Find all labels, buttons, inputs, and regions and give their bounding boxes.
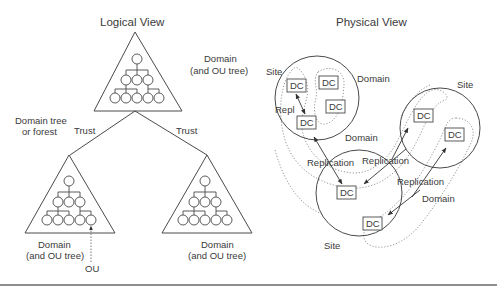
replication-label-2: Replication <box>362 155 409 166</box>
ou-label: OU <box>85 263 99 274</box>
repl-arrow-site1 <box>296 94 305 114</box>
physical-view-title: Physical View <box>336 16 407 28</box>
svg-text:DC: DC <box>448 129 462 140</box>
dc-site1-d: DC <box>297 116 316 129</box>
site1-label: Site <box>266 66 282 77</box>
trust-right-label: Trust <box>176 125 198 136</box>
replication-label-1: Replication <box>307 157 354 168</box>
forest-label-1: Domain tree <box>15 115 67 126</box>
dc-site2-a: DC <box>414 109 433 122</box>
svg-text:DC: DC <box>366 218 380 229</box>
dc-site1-a: DC <box>287 79 306 92</box>
site-circle-1 <box>275 56 359 140</box>
replication-label-3: Replication <box>397 176 444 187</box>
site2-label: Site <box>457 79 473 90</box>
site3-label: Site <box>324 240 340 251</box>
forest-label-2: or forest <box>22 126 57 137</box>
top-domain-label-1: Domain <box>204 53 237 64</box>
top-domain-triangle <box>94 32 182 111</box>
left-domain-label-2: (and OU tree) <box>26 250 84 261</box>
ad-views-diagram: Logical View Domain (and OU tree) Domain… <box>0 0 497 288</box>
top-domain-label-2: (and OU tree) <box>190 65 248 76</box>
svg-text:DC: DC <box>322 77 336 88</box>
replication-arrow-3a <box>388 190 420 215</box>
right-domain-triangle <box>162 155 252 233</box>
repl-label: Repl <box>275 104 295 115</box>
dc-site3-a: DC <box>337 186 356 199</box>
svg-text:DC: DC <box>300 117 314 128</box>
logical-view-title: Logical View <box>100 16 165 28</box>
dc-site1-c: DC <box>326 100 345 113</box>
domain-label-3: Domain <box>422 193 455 204</box>
dc-site2-b: DC <box>445 128 464 141</box>
svg-text:DC: DC <box>417 110 431 121</box>
svg-text:DC: DC <box>329 101 343 112</box>
svg-text:DC: DC <box>290 80 304 91</box>
left-domain-triangle <box>25 155 115 233</box>
dc-site3-b: DC <box>363 217 382 230</box>
replication-arrow-3b <box>412 148 446 197</box>
domain-label-1: Domain <box>357 73 390 84</box>
right-domain-label-1: Domain <box>201 239 234 250</box>
dc-site1-b: DC <box>319 76 338 89</box>
left-domain-label-1: Domain <box>38 239 71 250</box>
domain-label-2: Domain <box>345 132 378 143</box>
trust-left-label: Trust <box>74 125 96 136</box>
right-domain-label-2: (and OU tree) <box>188 250 246 261</box>
svg-text:DC: DC <box>340 187 354 198</box>
